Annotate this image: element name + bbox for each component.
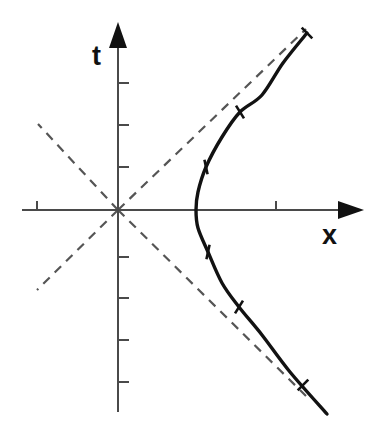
x-axis-arrow-icon: [338, 201, 364, 219]
x-axis-label: x: [322, 222, 337, 249]
diagram-canvas: [0, 0, 371, 438]
spacetime-diagram-figure: t x: [0, 0, 371, 438]
t-axis-label: t: [92, 43, 101, 70]
asymptote-upper-left: [38, 124, 118, 210]
t-axis-ticks: [118, 83, 129, 382]
hyperbola-group: [196, 28, 327, 414]
hyperbola-markers: [204, 28, 312, 391]
asymptote-lower-right: [118, 210, 306, 396]
t-axis-arrow-icon: [109, 22, 127, 48]
asymptote-lower-left: [37, 210, 118, 290]
axis-group: [22, 22, 364, 412]
asymptote-upper-right: [118, 29, 306, 210]
hyperbola-curve: [196, 33, 327, 414]
